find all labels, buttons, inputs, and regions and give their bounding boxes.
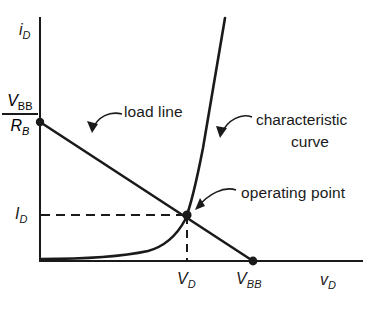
characteristic-curve-path <box>41 18 225 259</box>
supply-voltage-tick-label: VBB <box>236 271 262 287</box>
characteristic-curve-annotation-line2: curve <box>256 131 364 153</box>
plot-canvas <box>0 0 370 316</box>
characteristic-curve-annotation-line1: characteristic <box>256 109 364 131</box>
operating-current-sub: D <box>19 213 27 225</box>
supply-voltage-main: V <box>236 270 247 287</box>
supply-voltage-sub: BB <box>247 278 262 290</box>
diode-load-line-figure: iD vD VBB RB ID VD VBB load line charact… <box>0 0 370 316</box>
y-intercept-denominator: RB <box>2 117 38 135</box>
fraction-bar <box>2 113 38 115</box>
x-axis-label: vD <box>320 272 336 288</box>
operating-point-dot <box>182 210 191 219</box>
operating-voltage-tick-label: VD <box>177 271 196 287</box>
supply-voltage-dot <box>249 257 258 266</box>
characteristic-curve-arrowhead <box>216 126 227 138</box>
operating-voltage-sub: D <box>188 278 196 290</box>
operating-voltage-main: V <box>177 270 188 287</box>
x-axis-label-main: v <box>320 271 328 288</box>
x-axis-label-sub: D <box>328 279 336 291</box>
characteristic-curve-annotation: characteristic curve <box>256 109 364 153</box>
y-intercept-numerator-main: V <box>7 92 18 109</box>
y-axis-label-sub: D <box>23 29 31 41</box>
operating-current-tick-label: ID <box>15 206 28 222</box>
y-intercept-tick-label: VBB RB <box>2 92 38 135</box>
load-line-leader <box>92 113 122 130</box>
y-intercept-numerator: VBB <box>2 92 38 110</box>
y-intercept-numerator-sub: BB <box>18 100 33 112</box>
characteristic-curve-leader <box>221 116 252 134</box>
operating-point-annotation: operating point <box>241 185 345 201</box>
y-intercept-denominator-sub: B <box>22 125 30 137</box>
y-intercept-denominator-main: R <box>10 117 22 134</box>
load-line-curve <box>40 122 253 261</box>
y-axis-label: iD <box>19 22 31 38</box>
load-line-annotation: load line <box>124 104 183 120</box>
